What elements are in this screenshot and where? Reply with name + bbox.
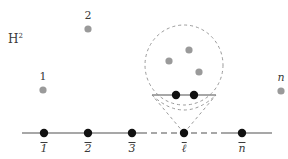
point-1-label: 1 — [40, 71, 47, 82]
baseline-point-n-dot — [238, 129, 246, 137]
baseline-point-n-label: n — [238, 142, 245, 154]
cone-line-left — [152, 95, 184, 133]
horoball-point-b — [165, 57, 172, 64]
horoball-point-c — [195, 68, 202, 75]
point-2-label: 2 — [85, 10, 92, 21]
baseline-point-1-dot — [40, 129, 48, 137]
baseline-point-ell-label-text: ℓ — [182, 142, 187, 154]
chord-point-left — [172, 91, 180, 99]
space-label: H2 — [8, 33, 23, 45]
baseline-point-1-label-text: 1 — [41, 142, 48, 154]
space-label-symbol: H — [8, 32, 18, 46]
baseline-point-n-label-text: n — [238, 142, 245, 154]
point-2-label-text: 2 — [85, 9, 92, 22]
horoball-point-a — [185, 46, 192, 53]
baseline-point-3-label-text: 3 — [129, 142, 136, 154]
baseline-point-3-label: 3 — [129, 142, 136, 154]
baseline-point-ell-dot — [180, 129, 188, 137]
point-2-dot — [84, 25, 91, 32]
point-n-label: n — [277, 72, 284, 83]
chord-point-right — [190, 91, 198, 99]
baseline-point-2-label-text: 2 — [85, 142, 92, 154]
cone-line-right — [184, 95, 216, 133]
point-n-dot — [277, 87, 284, 94]
baseline-point-ell-label: ℓ — [182, 142, 187, 154]
hyperbolic-plane-figure: H2 1 2 n 1 2 3 ℓ n — [0, 0, 288, 159]
point-1-dot — [39, 86, 46, 93]
point-n-label-text: n — [277, 71, 284, 84]
horoball-circle — [145, 25, 223, 105]
space-label-exponent: 2 — [18, 32, 22, 40]
baseline-point-2-label: 2 — [85, 142, 92, 154]
point-1-label-text: 1 — [40, 70, 47, 83]
baseline-point-3-dot — [128, 129, 136, 137]
baseline-point-2-dot — [84, 129, 92, 137]
baseline-point-1-label: 1 — [41, 142, 48, 154]
